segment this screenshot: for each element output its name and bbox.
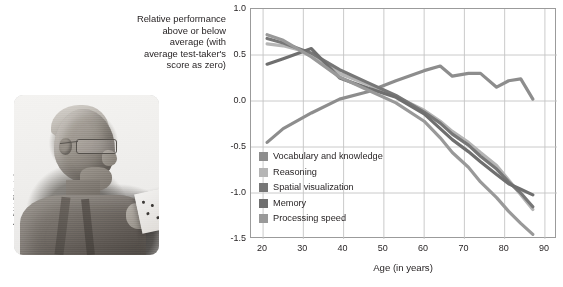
legend-item-memory[interactable]: Memory [259,197,383,210]
y-axis-description-line-3: average test-taker's [96,48,226,60]
legend-item-vocabulary-and-knowledge[interactable]: Vocabulary and knowledge [259,150,383,163]
x-tick-label-6: 80 [489,243,519,253]
photo-grain-overlay [14,95,159,255]
y-axis-description-line-4: score as zero) [96,59,226,71]
y-tick-label-3: -0.5 [212,141,246,151]
y-axis-description-line-1: above or below [96,25,226,37]
y-axis-description-line-0: Relative performance [96,13,226,25]
legend-swatch-icon [259,152,268,161]
x-tick-label-3: 50 [368,243,398,253]
legend-label: Vocabulary and knowledge [273,152,383,161]
y-axis-description-line-2: average (with [96,36,226,48]
elderly-man-reading-card-photo [14,95,159,255]
y-tick-label-2: 0.0 [212,95,246,105]
x-tick-label-1: 30 [287,243,317,253]
legend-item-processing-speed[interactable]: Processing speed [259,212,383,225]
figure-container: Ann Baldwin/Shutterstock Relative perfor… [0,0,563,287]
legend-label: Memory [273,199,306,208]
legend-label: Processing speed [273,214,346,223]
legend-swatch-icon [259,199,268,208]
legend-swatch-icon [259,183,268,192]
x-axis-title: Age (in years) [250,262,556,273]
x-axis-tick-labels: 2030405060708090 [250,243,556,257]
legend-item-spatial-visualization[interactable]: Spatial visualization [259,181,383,194]
y-tick-label-5: -1.5 [212,233,246,243]
x-tick-label-4: 60 [408,243,438,253]
x-tick-label-5: 70 [448,243,478,253]
x-tick-label-7: 90 [529,243,559,253]
y-axis-description: Relative performanceabove or belowaverag… [96,13,226,71]
x-tick-label-0: 20 [247,243,277,253]
chart-legend: Vocabulary and knowledgeReasoningSpatial… [259,150,383,225]
x-tick-label-2: 40 [328,243,358,253]
legend-swatch-icon [259,168,268,177]
legend-label: Reasoning [273,168,317,177]
legend-label: Spatial visualization [273,183,354,192]
y-tick-label-4: -1.0 [212,187,246,197]
y-tick-label-0: 1.0 [212,3,246,13]
y-tick-label-1: 0.5 [212,49,246,59]
y-axis-tick-labels: 1.00.50.0-0.5-1.0-1.5 [210,8,246,238]
legend-item-reasoning[interactable]: Reasoning [259,166,383,179]
legend-swatch-icon [259,214,268,223]
